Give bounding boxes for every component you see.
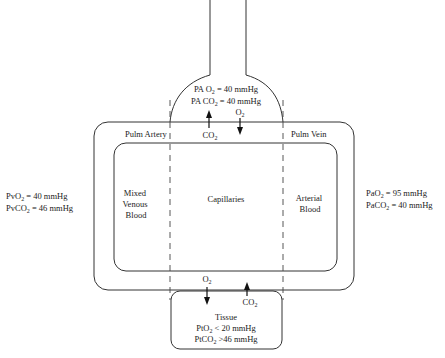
venous-pco2: PvCO2 = 46 mmHg [6,203,74,214]
tissue-po2: PtO2 < 20 mmHg [196,323,256,334]
o2-in-arrow [237,118,243,135]
arterial-blood-label: Arterial Blood [296,193,325,214]
venous-po2: PvO2 = 40 mmHg [6,191,68,202]
tissue-o2-label: O2 [202,274,211,285]
tissue-pco2: PtCO2 >46 mmHg [194,334,258,345]
circulation-diagram: PA O2 = 40 mmHg PA CO2 = 40 mmHg CO2 O2 … [0,0,445,358]
lung-o2-label: O2 [235,107,244,118]
mixed-venous-blood-label: Mixed Venous Blood [122,188,149,220]
capillaries-label: Capillaries [208,194,245,204]
tissue-title: Tissue [215,312,237,322]
arterial-pco2: PaCO2 = 40 mmHg [366,200,433,211]
co2-out-arrow [206,110,212,128]
alveolar-pco2: PA CO2 = 40 mmHg [191,96,262,107]
arterial-po2: PaO2 = 95 mmHg [366,188,428,199]
pulm-artery-label: Pulm Artery [125,129,168,139]
alveolar-po2: PA O2 = 40 mmHg [194,84,259,95]
lung-co2-label: CO2 [203,130,218,141]
pulm-vein-label: Pulm Vein [291,129,327,139]
